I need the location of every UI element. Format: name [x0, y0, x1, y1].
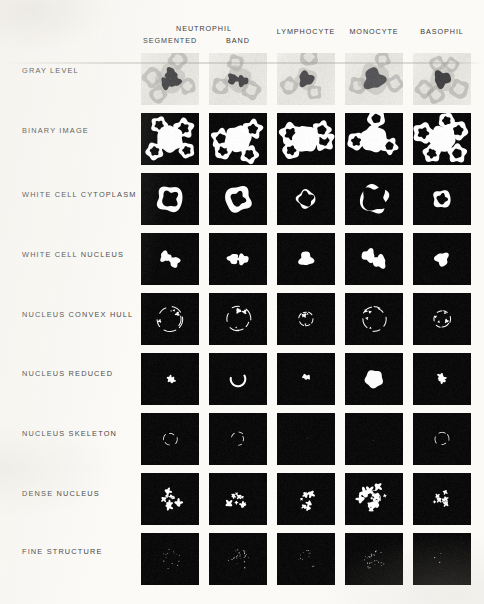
- cell-image-nucleus-convex-hull-monocyte: [345, 293, 403, 345]
- cell-image-fine-structure-basophil: [413, 533, 471, 585]
- cell-image-binary-image-lymphocyte: [277, 113, 335, 165]
- cell-nucleus-reduced-segmented: [141, 353, 199, 405]
- cell-nucleus-reduced-monocyte: [345, 353, 403, 405]
- cell-image-fine-structure-segmented: [141, 533, 199, 585]
- cell-image-nucleus-reduced-segmented: [141, 353, 199, 405]
- cell-binary-image-basophil: [413, 113, 471, 165]
- cell-white-cell-nucleus-band: [209, 233, 267, 285]
- row-label-dense-nucleus: DENSE NUCLEUS: [22, 489, 100, 498]
- cell-nucleus-convex-hull-band: [209, 293, 267, 345]
- cell-image-nucleus-convex-hull-lymphocyte: [277, 293, 335, 345]
- cell-image-white-cell-cytoplasm-segmented: [141, 173, 199, 225]
- cell-nucleus-skeleton-lymphocyte: [277, 413, 335, 465]
- cell-binary-image-band: [209, 113, 267, 165]
- cell-image-gray-level-lymphocyte: [277, 53, 335, 105]
- cell-image-binary-image-band: [209, 113, 267, 165]
- cell-nucleus-skeleton-band: [209, 413, 267, 465]
- cell-fine-structure-monocyte: [345, 533, 403, 585]
- cell-image-binary-image-monocyte: [345, 113, 403, 165]
- cell-white-cell-cytoplasm-lymphocyte: [277, 173, 335, 225]
- cell-nucleus-convex-hull-segmented: [141, 293, 199, 345]
- cell-white-cell-cytoplasm-band: [209, 173, 267, 225]
- row-label-nucleus-skeleton: NUCLEUS SKELETON: [22, 429, 117, 438]
- cell-binary-image-lymphocyte: [277, 113, 335, 165]
- cell-nucleus-skeleton-segmented: [141, 413, 199, 465]
- cell-image-binary-image-segmented: [141, 113, 199, 165]
- cell-white-cell-cytoplasm-monocyte: [345, 173, 403, 225]
- cell-image-dense-nucleus-basophil: [413, 473, 471, 525]
- cell-image-binary-image-basophil: [413, 113, 471, 165]
- row-label-binary-image: BINARY IMAGE: [22, 126, 89, 135]
- cell-gray-level-band: [209, 53, 267, 105]
- image-grid: GRAY LEVELBINARY IMAGEWHITE CELL CYTOPLA…: [0, 0, 484, 604]
- cell-image-nucleus-skeleton-monocyte: [345, 413, 403, 465]
- cell-dense-nucleus-band: [209, 473, 267, 525]
- cell-fine-structure-basophil: [413, 533, 471, 585]
- cell-nucleus-convex-hull-monocyte: [345, 293, 403, 345]
- cell-image-nucleus-reduced-basophil: [413, 353, 471, 405]
- cell-image-nucleus-skeleton-basophil: [413, 413, 471, 465]
- cell-image-nucleus-reduced-monocyte: [345, 353, 403, 405]
- cell-image-dense-nucleus-monocyte: [345, 473, 403, 525]
- row-label-white-cell-nucleus: WHITE CELL NUCLEUS: [22, 250, 124, 259]
- cell-nucleus-reduced-basophil: [413, 353, 471, 405]
- cell-binary-image-segmented: [141, 113, 199, 165]
- cell-image-gray-level-band: [209, 53, 267, 105]
- cell-dense-nucleus-lymphocyte: [277, 473, 335, 525]
- cell-dense-nucleus-basophil: [413, 473, 471, 525]
- cell-image-nucleus-skeleton-lymphocyte: [277, 413, 335, 465]
- cell-white-cell-cytoplasm-segmented: [141, 173, 199, 225]
- cell-image-white-cell-cytoplasm-band: [209, 173, 267, 225]
- cell-image-white-cell-nucleus-lymphocyte: [277, 233, 335, 285]
- cell-image-fine-structure-monocyte: [345, 533, 403, 585]
- cell-dense-nucleus-monocyte: [345, 473, 403, 525]
- cell-image-white-cell-nucleus-monocyte: [345, 233, 403, 285]
- cell-image-nucleus-reduced-lymphocyte: [277, 353, 335, 405]
- cell-image-white-cell-nucleus-band: [209, 233, 267, 285]
- row-label-fine-structure: FINE STRUCTURE: [22, 547, 103, 556]
- cell-image-white-cell-cytoplasm-monocyte: [345, 173, 403, 225]
- cell-image-nucleus-skeleton-band: [209, 413, 267, 465]
- cell-image-fine-structure-band: [209, 533, 267, 585]
- cell-image-nucleus-reduced-band: [209, 353, 267, 405]
- cell-fine-structure-band: [209, 533, 267, 585]
- cell-image-dense-nucleus-lymphocyte: [277, 473, 335, 525]
- cell-image-dense-nucleus-segmented: [141, 473, 199, 525]
- cell-nucleus-skeleton-basophil: [413, 413, 471, 465]
- cell-white-cell-nucleus-segmented: [141, 233, 199, 285]
- cell-nucleus-convex-hull-basophil: [413, 293, 471, 345]
- row-label-nucleus-convex-hull: NUCLEUS CONVEX HULL: [22, 310, 133, 319]
- cell-gray-level-monocyte: [345, 53, 403, 105]
- cell-dense-nucleus-segmented: [141, 473, 199, 525]
- cell-white-cell-cytoplasm-basophil: [413, 173, 471, 225]
- cell-white-cell-nucleus-basophil: [413, 233, 471, 285]
- cell-image-white-cell-nucleus-basophil: [413, 233, 471, 285]
- row-label-gray-level: GRAY LEVEL: [22, 66, 79, 75]
- cell-image-nucleus-convex-hull-basophil: [413, 293, 471, 345]
- cell-image-nucleus-skeleton-segmented: [141, 413, 199, 465]
- cell-nucleus-skeleton-monocyte: [345, 413, 403, 465]
- cell-gray-level-basophil: [413, 53, 471, 105]
- cell-image-fine-structure-lymphocyte: [277, 533, 335, 585]
- cell-gray-level-lymphocyte: [277, 53, 335, 105]
- cell-image-white-cell-nucleus-segmented: [141, 233, 199, 285]
- cell-nucleus-convex-hull-lymphocyte: [277, 293, 335, 345]
- cell-image-gray-level-monocyte: [345, 53, 403, 105]
- cell-image-white-cell-cytoplasm-basophil: [413, 173, 471, 225]
- row-label-nucleus-reduced: NUCLEUS REDUCED: [22, 369, 113, 378]
- cell-image-nucleus-convex-hull-segmented: [141, 293, 199, 345]
- cell-image-gray-level-basophil: [413, 53, 471, 105]
- cell-white-cell-nucleus-lymphocyte: [277, 233, 335, 285]
- cell-image-white-cell-cytoplasm-lymphocyte: [277, 173, 335, 225]
- cell-image-gray-level-segmented: [141, 53, 199, 105]
- cell-fine-structure-lymphocyte: [277, 533, 335, 585]
- row-label-white-cell-cytoplasm: WHITE CELL CYTOPLASM: [22, 190, 137, 199]
- cell-gray-level-segmented: [141, 53, 199, 105]
- cell-nucleus-reduced-band: [209, 353, 267, 405]
- cell-image-nucleus-convex-hull-band: [209, 293, 267, 345]
- cell-image-dense-nucleus-band: [209, 473, 267, 525]
- cell-nucleus-reduced-lymphocyte: [277, 353, 335, 405]
- cell-white-cell-nucleus-monocyte: [345, 233, 403, 285]
- cell-fine-structure-segmented: [141, 533, 199, 585]
- cell-binary-image-monocyte: [345, 113, 403, 165]
